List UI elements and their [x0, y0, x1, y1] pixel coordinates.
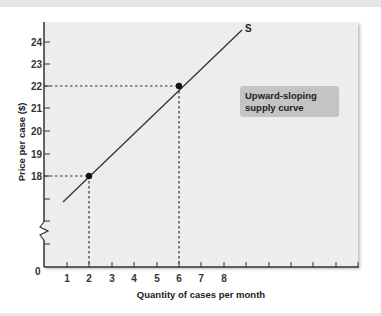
x-tick-labels: 1 2 3 4 5 6 7 8	[64, 273, 227, 284]
plot-area	[44, 22, 358, 267]
x-tick-7: 7	[198, 273, 204, 284]
x-tick-2: 2	[86, 273, 92, 284]
y-axis-title: Price per case ($)	[16, 103, 27, 182]
y-tick-24: 24	[31, 37, 43, 48]
x-tick-8: 8	[221, 273, 227, 284]
y-tick-21: 21	[31, 103, 43, 114]
y-tick-19: 19	[31, 149, 43, 160]
note-line-2: supply curve	[245, 102, 304, 113]
x-tick-3: 3	[109, 273, 115, 284]
x-tick-5: 5	[154, 273, 160, 284]
note-line-1: Upward-sloping	[245, 90, 317, 101]
x-tick-4: 4	[131, 273, 137, 284]
point-6-22	[176, 83, 182, 89]
y-tick-labels: 24 23 22 21 20 19 18	[31, 37, 43, 182]
x-axis-title: Quantity of cases per month	[137, 289, 265, 300]
x-tick-1: 1	[64, 273, 70, 284]
point-2-18	[86, 173, 92, 179]
curve-label-s: S	[245, 23, 252, 34]
origin-label: 0	[35, 266, 41, 277]
y-tick-20: 20	[31, 126, 43, 137]
supply-chart: Upward-sloping supply curve S 24 23 22 2…	[0, 0, 381, 316]
x-tick-6: 6	[176, 273, 182, 284]
y-tick-18: 18	[31, 171, 43, 182]
y-tick-22: 22	[31, 81, 43, 92]
y-tick-23: 23	[31, 59, 43, 70]
